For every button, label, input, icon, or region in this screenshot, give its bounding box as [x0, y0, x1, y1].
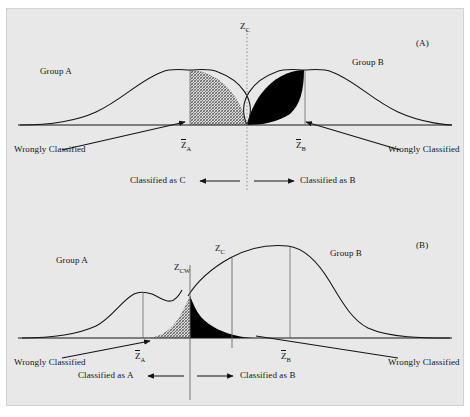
discriminant-analysis-figure: (A) Group A Group B ZC ZA ZB Wrongly Cla… [0, 0, 470, 417]
panel-b-cut-weighted-label: ZCW [174, 262, 190, 274]
panel-b-mean-a-label: ZA [135, 351, 145, 363]
panel-a-cut-score-label: ZC [240, 21, 250, 33]
panel-a-wrongly-classified-left: Wrongly Classified [14, 144, 86, 154]
panel-b-wrongly-classified-right: Wrongly Classified [388, 357, 460, 367]
panel-a-black-region [247, 70, 304, 125]
panel-b-cut-score-sub: C [221, 248, 225, 255]
panel-a-grey-region [190, 70, 247, 125]
panel-a-mean-a-label: ZA [181, 140, 191, 152]
panel-b-mean-b-sub: B [287, 356, 291, 363]
panel-a-group-a-label: Group A [40, 66, 72, 76]
panel-b-mean-b-label: ZB [281, 351, 291, 363]
panel-b-mean-b-text: Z [281, 351, 287, 361]
panel-b-mean-a-text: Z [135, 351, 141, 361]
panel-b-tag: (B) [416, 240, 428, 250]
figure-canvas [0, 0, 470, 417]
panel-a-mean-b-sub: B [302, 145, 306, 152]
panel-b-curve-group-b [188, 245, 450, 338]
panel-a-mean-b-label: ZB [296, 140, 306, 152]
panel-a-classified-right: Classified as B [300, 175, 356, 185]
panel-b-wrongly-classified-left: Wrongly Classified [14, 357, 86, 367]
panel-a-cut-score-sub: C [246, 26, 250, 33]
panel-a-group-b-label: Group B [352, 57, 384, 67]
panel-b-mean-a-sub: A [141, 356, 146, 363]
panel-a-classified-left: Classified as C [130, 175, 186, 185]
panel-b-classified-right: Classified as B [240, 370, 296, 380]
panel-b-wrongly-right-pointer [256, 336, 398, 358]
panel-b-black-region [190, 296, 258, 338]
panel-b-classified-left: Classified as A [78, 370, 134, 380]
panel-b-group-b-label: Group B [330, 248, 362, 258]
panel-a-wrongly-right-pointer [306, 122, 400, 150]
panel-a-tag: (A) [416, 38, 429, 48]
panel-b-group-a-label: Group A [56, 255, 88, 265]
panel-a-mean-a-sub: A [187, 145, 192, 152]
panel-a [18, 30, 452, 190]
panel-a-mean-b-text: Z [296, 140, 302, 150]
panel-a-mean-a-text: Z [181, 140, 187, 150]
panel-a-wrongly-classified-right: Wrongly Classified [388, 144, 460, 154]
panel-b-cut-weighted-sub: CW [180, 267, 191, 274]
panel-b-grey-region [150, 296, 190, 338]
panel-b-cut-score-label: ZC [215, 243, 225, 255]
panel-b-curve-group-a [22, 290, 182, 338]
